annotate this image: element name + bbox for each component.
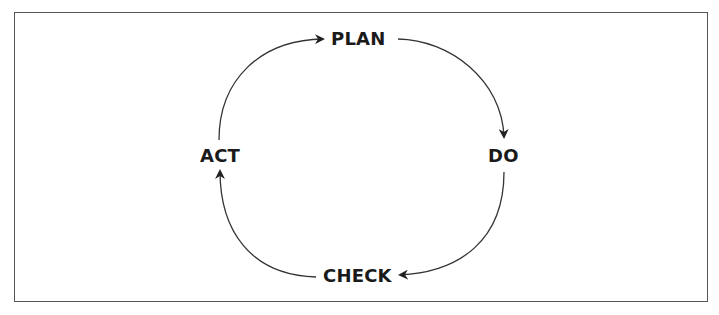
arrow-plan-to-do: [398, 39, 504, 137]
node-plan: PLAN: [331, 28, 385, 49]
arrow-do-to-check: [400, 172, 504, 275]
arrow-check-to-act: [220, 171, 316, 277]
node-do: DO: [488, 145, 519, 166]
arrow-act-to-plan: [219, 39, 323, 140]
node-act: ACT: [200, 145, 240, 166]
node-check: CHECK: [323, 265, 392, 286]
